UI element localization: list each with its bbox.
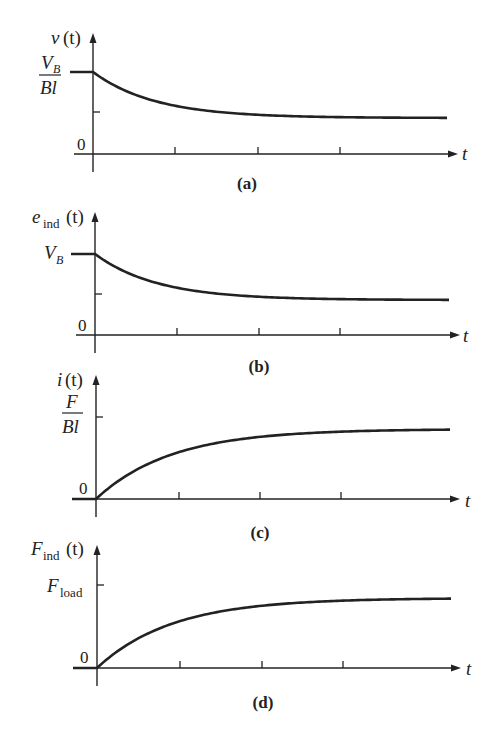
panel-c-y-arrow-icon bbox=[93, 375, 100, 385]
panel-a-velocity-curve bbox=[70, 72, 447, 118]
panel-c-tick-num: F bbox=[65, 391, 78, 412]
figure-stage: v (t) V B Bl 0 t (a) e ind (t) V B 0 t (… bbox=[0, 0, 498, 752]
panel-a-y-arrow-icon bbox=[90, 33, 97, 43]
panel-c-axes bbox=[78, 375, 460, 517]
panel-c-current-curve bbox=[72, 430, 450, 499]
panel-b-x-arrow-icon bbox=[450, 332, 460, 339]
panel-b-axes bbox=[76, 212, 460, 353]
panel-c-ylabel-arg: (t) bbox=[65, 369, 83, 391]
panel-a-axes bbox=[74, 33, 458, 172]
panel-c-ylabel-i: i bbox=[57, 369, 62, 390]
panel-d-ylabel-sub: ind bbox=[43, 548, 60, 563]
panel-d-tick-sub: load bbox=[60, 585, 83, 600]
panel-c: i (t) F Bl 0 t (c) bbox=[57, 369, 471, 542]
panel-d-zero: 0 bbox=[80, 648, 89, 667]
panel-c-caption: (c) bbox=[251, 523, 270, 542]
panel-a-zero: 0 bbox=[77, 135, 86, 154]
panel-c-t: t bbox=[465, 490, 471, 511]
panel-c-zero: 0 bbox=[79, 479, 88, 498]
panel-d-t: t bbox=[466, 658, 472, 679]
panel-d-x-arrow-icon bbox=[451, 665, 461, 672]
panel-a: v (t) V B Bl 0 t (a) bbox=[39, 27, 468, 193]
panel-b-t: t bbox=[463, 325, 469, 346]
panel-b-ylabel-arg: (t) bbox=[66, 206, 84, 228]
panel-a-x-arrow-icon bbox=[448, 151, 458, 158]
panel-d-ylabel-arg: (t) bbox=[66, 538, 84, 560]
panel-a-ylabel-arg: (t) bbox=[63, 27, 81, 49]
figure-svg: v (t) V B Bl 0 t (a) e ind (t) V B 0 t (… bbox=[0, 0, 498, 752]
panel-a-tick-den: Bl bbox=[40, 77, 57, 98]
panel-b-y-arrow-icon bbox=[92, 212, 99, 222]
panel-b-caption: (b) bbox=[249, 357, 270, 376]
panel-c-tick-den: Bl bbox=[62, 416, 79, 437]
panel-a-caption: (a) bbox=[237, 174, 257, 193]
panel-b-induced-voltage-curve bbox=[71, 254, 449, 300]
panel-d-y-arrow-icon bbox=[94, 545, 101, 555]
panel-a-tick-num-sub: B bbox=[53, 62, 61, 76]
panel-d-tick-f: F bbox=[46, 575, 59, 596]
panel-b-tick-sub: B bbox=[56, 253, 64, 267]
panel-b-ylabel-sub: ind bbox=[43, 216, 60, 231]
panel-d-axes bbox=[79, 545, 461, 686]
panel-d-ylabel-f: F bbox=[30, 538, 43, 559]
panel-d-caption: (d) bbox=[253, 693, 274, 712]
panel-c-x-arrow-icon bbox=[450, 496, 460, 503]
panel-a-ylabel-v: v bbox=[51, 27, 60, 48]
panel-d-induced-force-curve bbox=[73, 599, 451, 668]
panel-a-t: t bbox=[462, 143, 468, 164]
panel-b-zero: 0 bbox=[78, 316, 87, 335]
panel-d: F ind (t) F load 0 t (d) bbox=[30, 538, 472, 712]
panel-b: e ind (t) V B 0 t (b) bbox=[32, 206, 469, 376]
panel-b-ylabel-e: e bbox=[32, 206, 40, 227]
